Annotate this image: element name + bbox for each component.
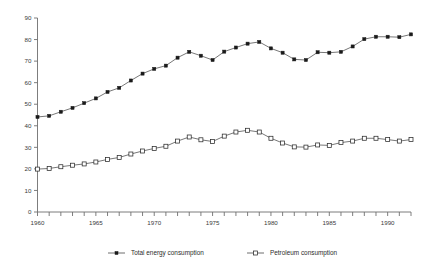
data-point-marker [258,40,261,43]
data-point-marker [397,139,401,143]
data-point-marker [94,160,98,164]
data-point-marker [281,141,285,145]
y-tick-label: 40 [25,122,32,129]
x-tick-label: 1985 [322,219,336,226]
legend-label: Petroleum consumption [270,249,338,257]
data-point-marker [223,50,226,53]
data-point-marker [374,136,378,140]
x-tick-label: 1990 [381,219,395,226]
data-point-marker [269,47,272,50]
y-tick-label: 70 [25,57,32,64]
x-tick-label: 1970 [147,219,161,226]
data-point-marker [117,155,121,159]
data-point-marker [386,138,390,142]
data-point-marker [351,45,354,48]
data-point-marker [211,140,215,144]
data-point-marker [374,35,377,38]
data-point-marker [328,51,331,54]
data-point-marker [152,146,156,150]
data-point-marker [316,51,319,54]
data-point-marker [339,141,343,145]
data-point-marker [36,115,39,118]
data-point-marker [188,50,191,53]
y-tick-label: 0 [28,208,32,215]
data-point-marker [71,163,75,167]
data-point-marker [164,144,168,148]
y-tick-label: 20 [25,165,32,172]
data-point-marker [363,38,366,41]
data-point-marker [351,139,355,143]
data-point-marker [129,79,132,82]
data-point-marker [94,97,97,100]
data-point-marker [164,64,167,67]
data-point-marker [129,152,133,156]
data-point-marker [292,145,296,149]
data-point-marker [211,58,214,61]
data-point-marker [176,56,179,59]
data-point-marker [153,67,156,70]
data-point-marker [82,162,86,166]
data-point-marker [141,149,145,153]
data-point-marker [36,167,40,171]
legend-marker-filled-square [115,252,118,255]
data-point-marker [222,134,226,138]
energy-consumption-line-chart: 0102030405060708090 19601965197019751980… [0,0,425,273]
data-point-marker [409,138,413,142]
y-tick-label: 30 [25,144,32,151]
data-point-marker [304,58,307,61]
data-point-marker [48,114,51,117]
x-tick-label: 1960 [31,219,45,226]
data-point-marker [141,72,144,75]
x-tick-label: 1980 [264,219,278,226]
y-tick-label: 90 [25,14,32,21]
data-point-marker [83,102,86,105]
y-tick-label: 60 [25,79,32,86]
data-point-marker [187,135,191,139]
data-point-marker [246,128,250,132]
data-point-marker [257,130,261,134]
data-point-marker [106,90,109,93]
data-point-marker [316,143,320,147]
y-tick-label: 10 [25,187,32,194]
data-point-marker [269,136,273,140]
x-tick-label: 1965 [89,219,103,226]
data-point-marker [293,58,296,61]
data-point-marker [59,165,63,169]
chart-canvas: 0102030405060708090 19601965197019751980… [0,0,425,273]
data-point-marker [71,106,74,109]
data-point-marker [176,139,180,143]
legend-label: Total energy consumption [131,249,204,257]
data-point-marker [304,145,308,149]
data-point-marker [409,33,412,36]
data-point-marker [386,35,389,38]
legend-marker-open-square [254,251,258,255]
data-point-marker [234,46,237,49]
data-point-marker [327,143,331,147]
data-point-marker [362,136,366,140]
data-point-marker [234,130,238,134]
data-point-marker [339,50,342,53]
data-point-marker [199,54,202,57]
data-point-marker [199,138,203,142]
data-point-marker [398,36,401,39]
data-point-marker [47,166,51,170]
data-point-marker [118,86,121,89]
x-tick-label: 1975 [206,219,220,226]
data-point-marker [246,42,249,45]
data-point-marker [281,51,284,54]
data-point-marker [59,110,62,113]
y-tick-label: 50 [25,100,32,107]
y-tick-label: 80 [25,36,32,43]
data-point-marker [106,157,110,161]
